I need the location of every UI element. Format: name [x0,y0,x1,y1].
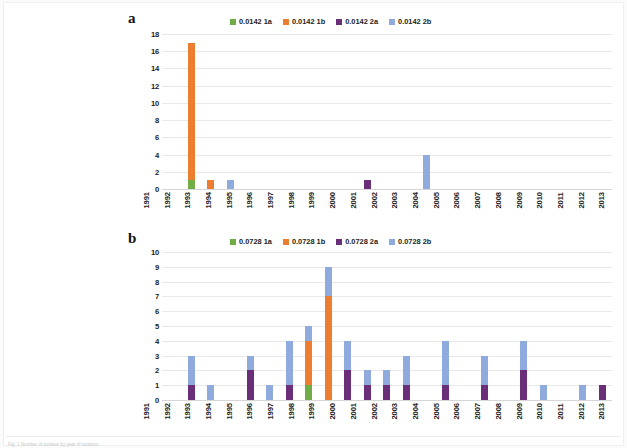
bar-column[interactable] [377,252,397,400]
bar-column[interactable] [221,252,241,400]
stacked-bar[interactable] [344,341,351,400]
stacked-bar[interactable] [305,326,312,400]
bar-column[interactable] [592,252,612,400]
stacked-bar[interactable] [227,180,234,189]
bar-column[interactable] [319,34,339,189]
stacked-bar[interactable] [325,267,332,400]
bar-column[interactable] [319,252,339,400]
x-tick-label: 2012 [577,403,586,420]
bar-column[interactable] [201,252,221,400]
bar-column[interactable] [221,34,241,189]
bar-column[interactable] [260,34,280,189]
bar-column[interactable] [534,34,554,189]
bar-column[interactable] [377,34,397,189]
bar-column[interactable] [592,34,612,189]
gridline [162,400,612,401]
stacked-bar[interactable] [481,356,488,400]
bar-column[interactable] [475,34,495,189]
bar-column[interactable] [279,34,299,189]
bar-column[interactable] [299,34,319,189]
x-tick-label: 1996 [245,403,254,420]
legend-item-0-0728-2a[interactable]: 0.0728 2a [336,237,378,246]
legend-item-0-0728-1b[interactable]: 0.0728 1b [283,237,325,246]
bar-column[interactable] [299,252,319,400]
x-tick-label: 2007 [473,192,482,209]
x-tick-label: 2002 [370,403,379,420]
stacked-bar[interactable] [188,356,195,400]
legend-item-0-0142-2a[interactable]: 0.0142 2a [336,17,378,26]
bar-column[interactable] [201,34,221,189]
bar-column[interactable] [534,252,554,400]
bar-column[interactable] [514,252,534,400]
legend-label: 0.0142 1b [292,17,325,26]
stacked-bar[interactable] [207,385,214,400]
stacked-bar[interactable] [188,43,195,189]
caption-divider [6,436,621,437]
bar-column[interactable] [553,252,573,400]
bar-segment [286,341,293,385]
x-tick-column: 1997 [260,403,281,420]
bar-column[interactable] [455,34,475,189]
bar-column[interactable] [573,34,593,189]
bar-column[interactable] [358,252,378,400]
x-tick-column: 1999 [302,192,323,209]
bar-column[interactable] [436,34,456,189]
bar-column[interactable] [573,252,593,400]
legend-panel-a: 0.0142 1a0.0142 1b0.0142 2a0.0142 2b [230,17,431,26]
stacked-bar[interactable] [364,370,371,400]
y-tick-label: 16 [151,47,159,56]
bar-column[interactable] [553,34,573,189]
x-tick-column: 2007 [467,192,488,209]
legend-item-0-0728-1a[interactable]: 0.0728 1a [230,237,272,246]
legend-item-0-0142-1b[interactable]: 0.0142 1b [283,17,325,26]
bar-column[interactable] [279,252,299,400]
bar-column[interactable] [240,34,260,189]
stacked-bar[interactable] [403,356,410,400]
stacked-bar[interactable] [247,356,254,400]
bar-column[interactable] [162,34,182,189]
bar-column[interactable] [338,252,358,400]
bar-column[interactable] [397,34,417,189]
bar-series-b [162,252,612,400]
x-tick-label: 1995 [225,192,234,209]
bar-column[interactable] [338,34,358,189]
bar-column[interactable] [475,252,495,400]
bar-column[interactable] [162,252,182,400]
stacked-bar[interactable] [207,180,214,189]
stacked-bar[interactable] [579,385,586,400]
x-tick-column: 2008 [488,192,509,209]
bar-column[interactable] [495,252,515,400]
stacked-bar[interactable] [540,385,547,400]
legend-item-0-0728-2b[interactable]: 0.0728 2b [389,237,431,246]
stacked-bar[interactable] [286,341,293,400]
stacked-bar[interactable] [423,155,430,189]
bar-column[interactable] [358,34,378,189]
bar-column[interactable] [455,252,475,400]
x-tick-column: 2007 [467,403,488,420]
bar-column[interactable] [416,252,436,400]
bar-column[interactable] [260,252,280,400]
x-tick-label: 2009 [515,403,524,420]
bar-column[interactable] [495,34,515,189]
x-tick-column: 1994 [198,192,219,209]
stacked-bar[interactable] [364,180,371,189]
legend-item-0-0142-1a[interactable]: 0.0142 1a [230,17,272,26]
bar-column[interactable] [182,252,202,400]
stacked-bar[interactable] [599,385,606,400]
x-tick-label: 2003 [390,403,399,420]
bar-column[interactable] [397,252,417,400]
bar-column[interactable] [240,252,260,400]
stacked-bar[interactable] [520,341,527,400]
stacked-bar[interactable] [266,385,273,400]
x-tick-label: 1996 [245,192,254,209]
bar-column[interactable] [182,34,202,189]
bar-column[interactable] [514,34,534,189]
figure-caption: Fig. 1 Number of isolates by year of iso… [8,442,99,447]
bar-column[interactable] [436,252,456,400]
legend-item-0-0142-2b[interactable]: 0.0142 2b [389,17,431,26]
x-tick-label: 2009 [515,192,524,209]
stacked-bar[interactable] [442,341,449,400]
bar-column[interactable] [416,34,436,189]
legend-swatch-icon [283,239,289,245]
stacked-bar[interactable] [383,370,390,400]
